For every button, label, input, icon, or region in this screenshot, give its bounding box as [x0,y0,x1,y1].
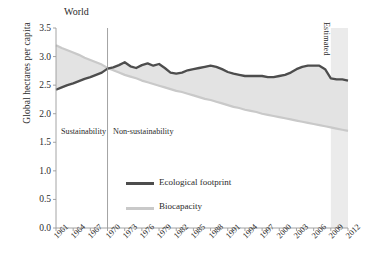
y-axis-tick-label: 2.5 [39,80,51,90]
y-axis-tick-label: 1.0 [39,166,51,176]
zone-label-sustainability: Sustainability [61,127,106,136]
zone-label-non-sustainability: Non-sustainability [113,127,174,136]
chart-figure: 0.00.51.01.52.02.53.03.5 196119641967197… [0,0,380,275]
chart-title: World [64,6,89,17]
y-axis-tick-label: 0.5 [39,194,51,204]
y-axis-tick-label: 3.0 [39,52,51,62]
y-axis-tick-label: 2.0 [39,109,51,119]
legend-swatch-ecological-footprint [126,182,154,185]
legend-label-biocapacity: Biocapacity [159,201,202,211]
y-axis-tick-label: 3.5 [39,23,51,33]
legend-swatch-biocapacity [126,207,154,210]
y-axis-tick-label: 1.5 [39,137,51,147]
y-axis-label: Global hectares per capita [22,0,32,148]
legend-label-ecological-footprint: Ecological footprint [159,177,231,187]
area-between-series [56,45,348,131]
estimated-region-label: Estimated [322,22,331,56]
y-axis-tick-label: 0.0 [39,223,51,233]
